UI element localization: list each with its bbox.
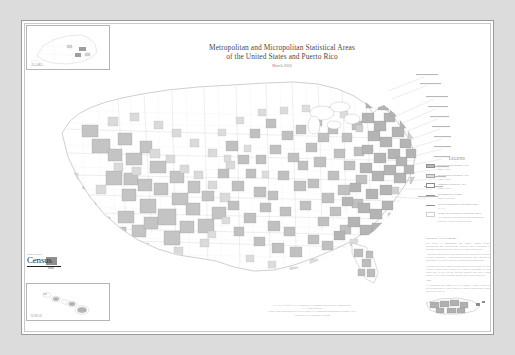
legend-sub-3: Name of division (438, 197, 462, 200)
inset-hawaii-label: HAWAII (31, 314, 42, 318)
map-title-block: Metropolitan and Micropolitan Statistica… (172, 43, 392, 68)
legend-sub-1: Name of area (438, 178, 469, 181)
state-boundary-line-icon (426, 205, 435, 206)
census-logo-wordmark: Census (27, 256, 77, 265)
legend-item-metropolitan-division: Metropolitan Division Name of division (426, 193, 488, 200)
combined-statistical-area-swatch-icon (426, 183, 435, 187)
statistical-areas-florida (352, 243, 378, 283)
legend-item-state-boundary: State or Statistically Equivalent Entity… (426, 203, 488, 210)
definitions-panel: Statistical Area Definitions The Office … (426, 237, 490, 280)
credit-line-3: Prepared by the Geography Division (237, 314, 387, 317)
county-boundary-swatch-icon (426, 212, 435, 216)
poster-backdrop: Metropolitan and Micropolitan Statistica… (0, 0, 515, 355)
census-logo-underline (27, 266, 61, 268)
census-bureau-logo: United States Census (27, 253, 77, 267)
map-sheet: Metropolitan and Micropolitan Statistica… (21, 20, 494, 335)
note-heading: Note (426, 279, 490, 282)
title-line-2: of the United States and Puerto Rico (172, 52, 392, 61)
definitions-paragraph-1: A metropolitan statistical area contains… (426, 253, 490, 262)
note-panel: Note All boundaries and names are as of … (426, 279, 490, 295)
note-paragraph-0: All boundaries and names are as of Janua… (426, 284, 490, 293)
micropolitan-statistical-area-swatch-icon (426, 174, 435, 178)
legend-label-3: Metropolitan Division (438, 193, 462, 196)
legend-label-4: State or Statistically Equivalent Entity (438, 203, 479, 206)
definitions-paragraph-2: Each metropolitan or micropolitan statis… (426, 265, 490, 277)
title-line-1: Metropolitan and Micropolitan Statistica… (172, 43, 392, 52)
legend-item-metropolitan-statistical-area: Metropolitan Statistical Area Name of ar… (426, 164, 488, 171)
metropolitan-statistical-area-swatch-icon (426, 164, 435, 168)
inset-alaska-label: ALASKA (31, 63, 43, 67)
legend-label-1: Micropolitan Statistical Area (438, 174, 469, 177)
metropolitan-division-line-icon (426, 195, 435, 196)
legend-sub-2: Name of area (438, 187, 466, 190)
inset-alaska[interactable]: ALASKA (26, 25, 110, 70)
title-date: March 2020 (172, 64, 392, 68)
legend-sub-5: Areas outside of Metropolitan and Microp… (438, 216, 489, 222)
inset-hawaii[interactable]: HAWAII (26, 283, 110, 321)
definitions-heading: Statistical Area Definitions (426, 237, 490, 240)
credit-block: U.S. DEPARTMENT OF COMMERCE Economics an… (237, 304, 387, 317)
legend-label-2: Combined Statistical Area (438, 183, 466, 186)
legend-panel: LEGEND Metropolitan Statistical Area Nam… (426, 157, 488, 225)
definitions-paragraph-0: The Office of Management and Budget (OMB… (426, 242, 490, 251)
legend-label-0: Metropolitan Statistical Area (438, 164, 469, 167)
legend-heading: LEGEND (426, 157, 488, 161)
legend-sub-4: TEXAS (438, 207, 479, 210)
legend-label-5: County or Statistically Equivalent Entit… (438, 212, 482, 215)
legend-item-combined-statistical-area: Combined Statistical Area Name of area (426, 183, 488, 190)
legend-item-micropolitan-statistical-area: Micropolitan Statistical Area Name of ar… (426, 174, 488, 181)
legend-sub-0: Name of area (438, 168, 469, 171)
legend-item-county-boundary: County or Statistically Equivalent Entit… (426, 212, 488, 222)
